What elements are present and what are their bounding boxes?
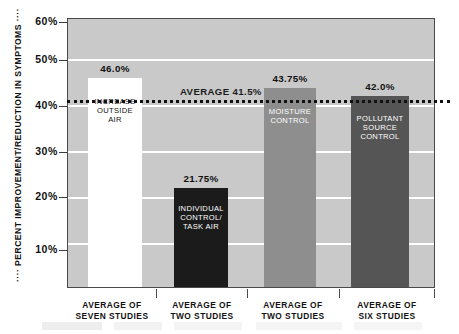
- bar-4-value-label: 42.0%: [351, 81, 409, 92]
- figure-caption-cutoff: [42, 322, 422, 330]
- bar-moisture-control[interactable]: MOISTURE CONTROL: [264, 88, 316, 287]
- bar-2-name-line2: CONTROL/: [174, 213, 228, 222]
- bar-2-name-line1: INDIVIDUAL: [174, 204, 228, 213]
- category-label-3: AVERAGE OF TWO STUDIES: [249, 300, 337, 322]
- category-4-line1: AVERAGE OF: [341, 300, 433, 311]
- category-separator-2: [247, 289, 248, 298]
- category-2-line1: AVERAGE OF: [158, 300, 246, 311]
- bar-4-name-line3: CONTROL: [351, 132, 409, 141]
- category-4-line2: SIX STUDIES: [341, 311, 433, 322]
- y-axis-tick-labels: 60% 50% 40% 30% 20% 10%: [12, 0, 58, 334]
- y-tick-mark-50: [59, 60, 67, 61]
- bar-4-name-line2: SOURCE: [351, 123, 409, 132]
- y-tick-label-20: 20%: [14, 190, 58, 202]
- bar-1-name-line3: AIR: [88, 115, 142, 124]
- category-label-2: AVERAGE OF TWO STUDIES: [158, 300, 246, 322]
- category-3-line1: AVERAGE OF: [249, 300, 337, 311]
- plot-area: INCREASE OUTSIDE AIR 46.0% INDIVIDUAL CO…: [67, 18, 435, 288]
- category-separator-1: [156, 289, 157, 298]
- gridline-50: [68, 59, 434, 61]
- average-line-label: AVERAGE 41.5%: [180, 86, 262, 97]
- bar-3-name-line2: CONTROL: [264, 116, 316, 125]
- y-tick-label-30: 30%: [14, 145, 58, 157]
- y-tick-mark-40: [59, 106, 67, 107]
- category-1-line2: SEVEN STUDIES: [68, 311, 156, 322]
- category-3-line2: TWO STUDIES: [249, 311, 337, 322]
- category-1-line1: AVERAGE OF: [68, 300, 156, 311]
- bar-1-value-label: 46.0%: [88, 63, 142, 74]
- y-tick-mark-10: [59, 250, 67, 251]
- bar-pollutant-source-control[interactable]: POLLUTANT SOURCE CONTROL: [351, 96, 409, 287]
- y-tick-mark-60: [59, 22, 67, 23]
- bar-3-name-line1: MOISTURE: [264, 107, 316, 116]
- bar-individual-control-task-air[interactable]: INDIVIDUAL CONTROL/ TASK AIR: [174, 188, 228, 287]
- y-tick-label-10: 10%: [14, 243, 58, 255]
- y-tick-mark-20: [59, 197, 67, 198]
- bar-2-name-line3: TASK AIR: [174, 222, 228, 231]
- bar-increase-outside-air[interactable]: INCREASE OUTSIDE AIR: [88, 78, 142, 287]
- y-tick-label-50: 50%: [14, 53, 58, 65]
- bar-2-value-label: 21.75%: [174, 173, 228, 184]
- bar-chart-figure: ···· PERCENT IMPROVEMENT/REDUCTION IN SY…: [0, 0, 459, 334]
- bar-3-value-label: 43.75%: [264, 73, 316, 84]
- y-tick-label-60: 60%: [14, 15, 58, 27]
- category-2-line2: TWO STUDIES: [158, 311, 246, 322]
- category-label-1: AVERAGE OF SEVEN STUDIES: [68, 300, 156, 322]
- average-reference-line: [67, 100, 450, 103]
- category-separator-3: [339, 289, 340, 298]
- y-tick-mark-30: [59, 152, 67, 153]
- category-label-4: AVERAGE OF SIX STUDIES: [341, 300, 433, 322]
- bar-1-name-line2: OUTSIDE: [88, 106, 142, 115]
- bar-4-name-line1: POLLUTANT: [351, 114, 409, 123]
- y-tick-label-40: 40%: [14, 99, 58, 111]
- category-separator-4: [434, 289, 435, 298]
